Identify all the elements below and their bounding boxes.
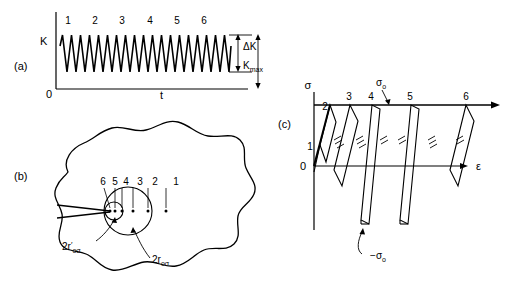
panel-c-cycle-label-2: 2 xyxy=(322,101,328,112)
panel-b-monotonic-zone-label: 2roσ xyxy=(152,254,170,267)
panel-a-label: (a) xyxy=(14,60,27,72)
panel-a-cycle-label-6: 6 xyxy=(201,15,207,26)
panel-c-cycle-label-4: 4 xyxy=(368,91,374,102)
panel-c-negative-sigma-o-arrowhead xyxy=(360,228,366,235)
panel-c-y-axis-label: σ xyxy=(305,79,312,91)
panel-b-crack-upper-face xyxy=(57,205,110,211)
panel-a-y-axis-label: K xyxy=(40,35,48,47)
panel-b-monotonic-zone-arrowhead xyxy=(131,227,137,233)
panel-c-loop-2 xyxy=(320,105,336,162)
panel-a-delta-k-label: ΔK xyxy=(243,41,257,52)
panel-c: (c) σ ε 0 xyxy=(278,77,500,263)
panel-a: (a) K 0 t 1 2 3 4 5 6 ΔK Kmax xyxy=(14,12,263,101)
panel-c-negative-sigma-o-leader xyxy=(358,232,362,254)
panel-c-loop-3 xyxy=(334,105,358,186)
panel-a-origin-label: 0 xyxy=(46,88,52,100)
panel-a-cycle-label-4: 4 xyxy=(147,15,153,26)
panel-a-x-axis-label: t xyxy=(160,89,163,101)
panel-b-monotonic-zone-leader xyxy=(134,230,150,258)
panel-c-cycle-label-5: 5 xyxy=(407,91,413,102)
panel-b-position-label-4: 4 xyxy=(123,176,129,187)
panel-c-origin-label: 0 xyxy=(300,160,306,172)
panel-c-loop-4 xyxy=(361,105,380,224)
panel-b-position-dot-4 xyxy=(121,210,124,213)
panel-b-cyclic-zone-label: 2r′oσ xyxy=(62,240,81,254)
panel-b-position-dot-5 xyxy=(114,210,117,213)
panel-b-position-dot-6 xyxy=(109,210,112,213)
panel-b-position-label-2: 2 xyxy=(152,176,158,187)
panel-b-crack-lower-face xyxy=(57,212,110,218)
panel-b-specimen-outline xyxy=(55,121,255,270)
panel-b-position-dot-3 xyxy=(132,210,135,213)
panel-a-cycle-label-3: 3 xyxy=(119,15,125,26)
panel-a-cycle-label-5: 5 xyxy=(174,15,180,26)
panel-a-cycle-label-2: 2 xyxy=(92,15,98,26)
panel-c-cycle-label-3: 3 xyxy=(346,91,352,102)
panel-b-position-dot-2 xyxy=(147,210,150,213)
panel-b-position-dot-1 xyxy=(165,210,168,213)
panel-b-label: (b) xyxy=(14,170,27,182)
panel-c-sigma-o-label: σo xyxy=(376,77,386,90)
panel-c-x-axis-label: ε xyxy=(476,160,481,172)
panel-a-delta-k-dimension xyxy=(235,34,240,72)
panel-c-loop-6 xyxy=(450,105,474,186)
panel-c-cycle-label-1: 1 xyxy=(307,141,313,152)
panel-c-loop-5 xyxy=(400,105,419,224)
panel-a-cycle-label-1: 1 xyxy=(65,15,71,26)
panel-c-sigma-o-arrowhead xyxy=(491,102,500,109)
panel-b-position-label-3: 3 xyxy=(137,176,143,187)
panel-b-cyclic-zone-leader xyxy=(96,220,114,241)
panel-a-kmax-label: Kmax xyxy=(243,60,263,73)
fatigue-crack-figure: (a) K 0 t 1 2 3 4 5 6 ΔK Kmax xyxy=(0,0,522,285)
panel-a-waveform xyxy=(60,35,231,72)
panel-b-position-label-6: 6 xyxy=(100,176,106,187)
panel-c-label: (c) xyxy=(278,118,291,130)
panel-c-cycle-label-6: 6 xyxy=(463,91,469,102)
panel-b: (b) 6 5 4 3 2 1 2r′oσ xyxy=(14,121,255,270)
panel-c-loop-2-tail xyxy=(314,145,320,172)
panel-c-negative-sigma-o-label: −σo xyxy=(370,250,386,263)
panel-c-sigma-o-leader-arrowhead xyxy=(385,99,391,105)
panel-b-position-label-1: 1 xyxy=(173,176,179,187)
panel-b-position-label-5: 5 xyxy=(112,176,118,187)
